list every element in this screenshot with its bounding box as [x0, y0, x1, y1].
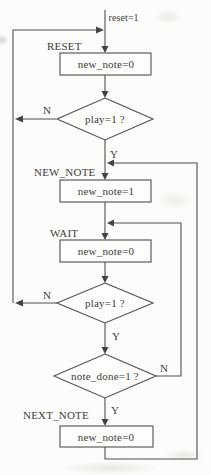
arrowhead-into-nextnote-box — [102, 419, 109, 426]
flowchart-canvas: reset=1 RESET new_note=0 N play=1 ? Y NE… — [0, 0, 211, 475]
state-wait-label: WAIT — [50, 227, 78, 239]
scanned-flowchart-page: reset=1 RESET new_note=0 N play=1 ? Y NE… — [0, 0, 211, 475]
state-reset-label: RESET — [47, 40, 82, 52]
arrowhead-into-decision1 — [102, 91, 109, 98]
arrowhead-into-newnote-box — [102, 173, 109, 180]
decision2-no-label: N — [43, 289, 51, 301]
arrowhead-into-reset-box — [102, 46, 109, 53]
decision2-yes-label: Y — [112, 330, 120, 342]
decision1-no-label: N — [43, 104, 51, 116]
state-wait-action: new_note=0 — [78, 245, 135, 257]
decision-note-done-label: note_done=1 ? — [71, 370, 139, 382]
arrowhead-decision2-no — [15, 300, 23, 307]
state-newnote-action: new_note=1 — [78, 185, 134, 197]
entry-condition-label: reset=1 — [109, 12, 139, 23]
state-reset-action: new_note=0 — [78, 58, 135, 70]
arrowhead-entry-join — [96, 27, 104, 34]
state-nextnote-action: new_note=0 — [78, 431, 135, 443]
decision-play-2-label: play=1 ? — [85, 297, 125, 309]
arrowhead-join-wait — [107, 220, 114, 227]
arrowhead-into-decision3 — [102, 347, 109, 354]
decision3-no-label: N — [160, 362, 168, 374]
arrowhead-into-wait-box — [102, 233, 109, 240]
decision1-yes-label: Y — [110, 148, 118, 160]
decision3-yes-label: Y — [111, 404, 119, 416]
arrowhead-join-newnote — [107, 160, 114, 167]
state-nextnote-label: NEXT_NOTE — [23, 409, 89, 421]
arrowhead-into-decision2 — [102, 276, 109, 283]
arrowhead-decision1-no — [15, 116, 23, 123]
state-newnote-label: NEW_NOTE — [34, 166, 96, 178]
decision-play-1-label: play=1 ? — [85, 113, 125, 125]
